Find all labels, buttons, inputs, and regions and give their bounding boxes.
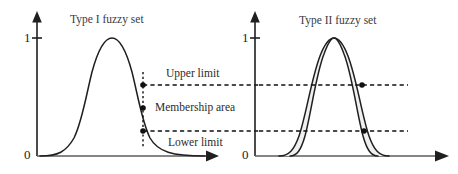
left-x-axis-arrowhead (206, 151, 219, 162)
left-y-axis-min-label: 0 (24, 148, 31, 161)
right-y-axis-arrowhead (250, 11, 260, 23)
lower-limit-marker-left (140, 128, 146, 134)
left-y-axis-arrowhead (32, 11, 42, 23)
right-y-axis-max-label: 1 (242, 31, 249, 44)
left-y-axis-max-label: 1 (24, 31, 31, 44)
lower-limit-marker-right (361, 128, 367, 134)
footprint-of-uncertainty-band (279, 38, 389, 156)
right-y-axis-min-label: 0 (242, 148, 249, 161)
fuzzy-set-figure: Type I fuzzy set Type II fuzzy set 1 0 1… (0, 0, 458, 174)
type2-upper-membership-curve (279, 38, 389, 156)
right-panel-title: Type II fuzzy set (299, 15, 376, 27)
left-panel-title: Type I fuzzy set (70, 14, 144, 26)
right-panel-axes (250, 11, 449, 162)
figure-canvas (0, 0, 458, 174)
membership-area-label: Membership area (155, 102, 235, 114)
right-x-axis-arrowhead (435, 150, 449, 161)
membership-area-marker-left (140, 105, 146, 111)
upper-limit-marker-left (140, 82, 146, 88)
lower-limit-label: Lower limit (168, 137, 223, 149)
upper-limit-label: Upper limit (166, 68, 219, 80)
upper-limit-marker-right (359, 82, 365, 88)
